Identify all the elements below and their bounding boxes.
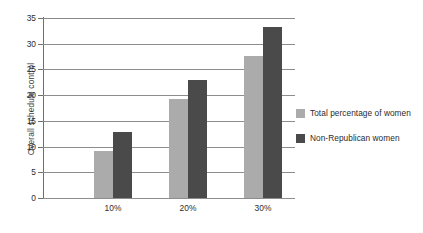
bar-10pct-series-1 (94, 151, 113, 198)
legend-label: Total percentage of women (310, 108, 411, 118)
y-axis-tick-label: 0 (6, 193, 36, 203)
legend-swatch-non-republican-women (296, 134, 305, 143)
plot-area (43, 18, 295, 198)
x-axis-tick-label: 20% (158, 203, 218, 213)
y-axis-tick-label: 5 (6, 167, 36, 177)
gridline (43, 198, 295, 199)
y-axis-tick-label: 30 (6, 39, 36, 49)
bar-30pct-series-1 (244, 56, 263, 198)
y-axis-tick-label: 35 (6, 13, 36, 23)
legend-label: Non-Republican women (310, 133, 400, 143)
legend-swatch-total-percentage-of-women (296, 109, 305, 118)
y-axis-tick-label: 10 (6, 142, 36, 152)
bar-20pct-series-2 (188, 80, 207, 198)
bar-30pct-series-2 (263, 27, 282, 198)
bar-group-20pct (169, 18, 207, 198)
y-axis-tick-label: 20 (6, 90, 36, 100)
y-axis-tick-label: 25 (6, 64, 36, 74)
bar-20pct-series-1 (169, 99, 188, 198)
y-axis-tick-mark (38, 18, 43, 19)
y-axis-tick-mark (38, 121, 43, 122)
y-axis-tick-label: 15 (6, 116, 36, 126)
x-axis-tick-label: 30% (233, 203, 293, 213)
legend-item-1: Total percentage of women (296, 104, 421, 122)
bar-chart: Overall schedule control 05101520253035 … (0, 0, 423, 233)
bar-group-10pct (94, 18, 132, 198)
y-axis-tick-mark (38, 172, 43, 173)
y-axis-tick-mark (38, 147, 43, 148)
x-axis-tick-label: 10% (83, 203, 143, 213)
bar-10pct-series-2 (113, 132, 132, 198)
chart-legend: Total percentage of womenNon-Republican … (296, 104, 421, 154)
y-axis-tick-mark (38, 44, 43, 45)
y-axis-tick-mark (38, 95, 43, 96)
y-axis-tick-mark (38, 198, 43, 199)
y-axis-tick-mark (38, 69, 43, 70)
y-axis-tick-labels: 05101520253035 (0, 18, 36, 198)
bar-group-30pct (244, 18, 282, 198)
legend-item-2: Non-Republican women (296, 129, 421, 147)
